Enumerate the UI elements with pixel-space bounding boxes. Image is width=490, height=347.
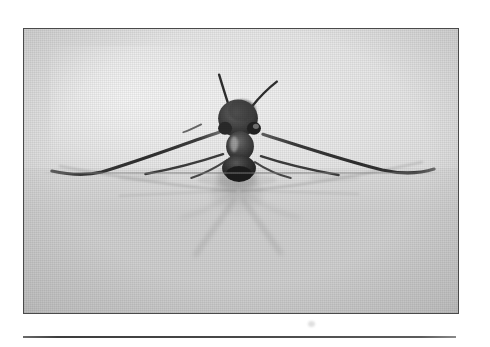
photo-frame xyxy=(23,28,459,314)
scanned-page xyxy=(0,0,490,347)
horizontal-rule xyxy=(23,336,456,338)
scanner-speck xyxy=(308,321,315,327)
halftone-texture xyxy=(24,29,458,313)
photograph xyxy=(24,29,458,313)
